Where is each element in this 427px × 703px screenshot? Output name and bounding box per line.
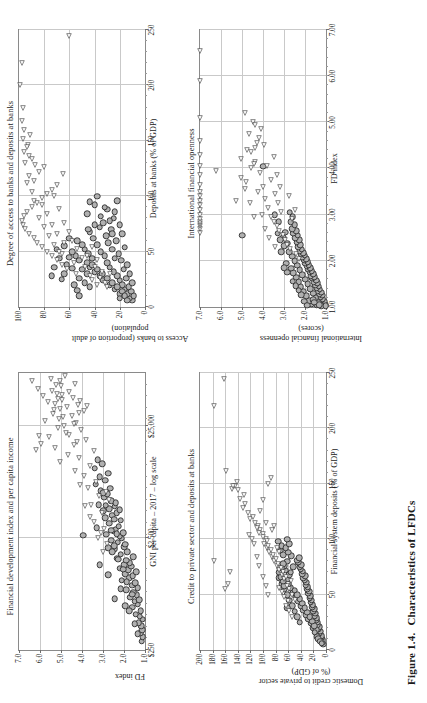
data-point-other [94, 258, 99, 263]
data-point-other [249, 166, 254, 171]
data-point-other [67, 33, 72, 38]
data-point-other [260, 574, 265, 579]
data-point-other [258, 509, 263, 514]
x-tick-minor [326, 57, 328, 58]
data-point-other [50, 412, 55, 417]
data-point-other [271, 154, 276, 159]
x-tick-minor [145, 284, 147, 285]
data-point-lfdc [129, 591, 136, 598]
x-tick-minor [326, 186, 328, 187]
panel-intl-openness: International financial openness 1.02.03… [187, 25, 358, 342]
data-point-other [277, 585, 282, 590]
x-tick-minor [326, 638, 328, 639]
x-tick-minor [326, 472, 328, 473]
gridline-horizontal [225, 373, 226, 650]
data-point-other [44, 211, 49, 216]
data-point-other [197, 115, 202, 120]
data-point-lfdc [239, 232, 246, 239]
x-tick-minor [326, 214, 328, 215]
data-point-other [248, 200, 253, 205]
data-point-other [23, 160, 28, 165]
data-point-lfdc [115, 523, 122, 530]
data-point-lfdc [296, 555, 303, 562]
data-point-lfdc [290, 564, 297, 571]
data-point-other [57, 378, 62, 383]
data-point-other [35, 386, 40, 391]
y-tick-label: 2.0 [301, 311, 309, 320]
data-point-other [290, 217, 295, 222]
data-point-other [38, 441, 43, 446]
data-point-other [197, 164, 202, 169]
data-point-other [64, 267, 69, 272]
y-tick-label: 6.0 [217, 311, 225, 320]
gridline-vertical [19, 29, 145, 30]
x-tick-minor [326, 428, 328, 429]
data-point-lfdc [59, 276, 66, 283]
y-tick-mark [263, 650, 264, 653]
data-point-lfdc [113, 530, 120, 537]
x-tick-minor [326, 583, 328, 584]
data-point-lfdc [117, 222, 124, 229]
y-axis-label-holder-3: International financial openness (scores… [187, 331, 315, 332]
y-tick-mark [200, 650, 201, 653]
data-point-other [274, 173, 279, 178]
data-point-other [275, 200, 280, 205]
x-axis-label-intl-openness: FD index [330, 29, 339, 308]
data-point-other [230, 483, 235, 488]
data-point-other [57, 249, 62, 254]
x-tick-minor [145, 384, 147, 385]
data-point-other [29, 379, 34, 384]
y-axis-label-access-deposits: Access to banks (proportion of adult pop… [70, 324, 190, 343]
data-point-lfdc [115, 556, 122, 563]
gridline-horizontal [213, 373, 214, 650]
data-point-other [221, 376, 226, 381]
data-point-other [59, 262, 64, 267]
data-point-lfdc [304, 302, 311, 309]
x-tick-minor [326, 131, 328, 132]
data-point-other [53, 383, 58, 388]
y-tick-label: 3.0 [99, 654, 107, 663]
data-point-other [272, 523, 277, 528]
data-point-other [254, 525, 259, 530]
x-tick-minor [326, 168, 328, 169]
x-tick-minor [145, 499, 147, 500]
y-axis-label-intl-openness: International financial openness (scores… [251, 324, 371, 343]
data-point-other [264, 164, 269, 169]
data-point-other [60, 415, 65, 420]
data-point-lfdc [106, 217, 113, 224]
data-point-other [241, 492, 246, 497]
data-point-lfdc [111, 516, 118, 523]
x-tick-minor [326, 140, 328, 141]
data-point-other [82, 504, 87, 509]
x-tick-minor [326, 406, 328, 407]
x-tick-minor [326, 260, 328, 261]
data-point-other [54, 231, 59, 236]
data-point-other [88, 514, 93, 519]
data-point-lfdc [90, 235, 97, 242]
data-point-other [261, 143, 266, 148]
data-point-other [260, 498, 265, 503]
data-point-lfdc [322, 303, 329, 310]
y-tick-mark [238, 650, 239, 653]
gridline-vertical [200, 372, 326, 373]
data-point-other [85, 403, 90, 408]
x-tick-minor [326, 66, 328, 67]
data-point-lfdc [318, 640, 325, 647]
y-tick-mark [44, 307, 45, 310]
chart-grid: Financial development index and per capi… [6, 25, 358, 685]
data-point-other [107, 497, 112, 502]
y-tick-label: 5.0 [238, 311, 246, 320]
y-tick-mark [276, 650, 277, 653]
x-tick-minor [145, 295, 147, 296]
panel-title-access-deposits: Degree of access to banks and deposits a… [6, 25, 18, 342]
x-tick-minor [326, 39, 328, 40]
data-point-other [103, 489, 108, 494]
figure-container: Financial development index and per capi… [0, 0, 427, 703]
x-tick-minor [145, 229, 147, 230]
data-point-other [86, 485, 91, 490]
data-point-other [263, 583, 268, 588]
x-tick-minor [145, 107, 147, 108]
data-point-other [20, 105, 25, 110]
x-tick-minor [326, 196, 328, 197]
data-point-other [274, 545, 279, 550]
